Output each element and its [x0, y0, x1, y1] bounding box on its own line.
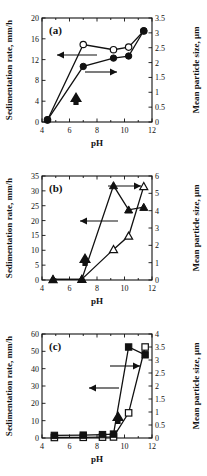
y2-tick-label: 0.5: [155, 103, 165, 112]
data-point-filled-triangle: [110, 182, 118, 189]
x-axis-title: pH: [91, 296, 103, 306]
y-tick-label: 30: [31, 382, 39, 391]
y2-axis-title: Mean particle size, µm: [191, 26, 201, 114]
plot-svg-a: 468101204812162000.511.522.533.5(a)pHSed…: [0, 0, 207, 160]
y-tick-label: 4: [35, 97, 39, 106]
y2-tick-label: 3: [155, 224, 159, 233]
y-tick-label: 0: [35, 118, 39, 127]
x-tick-label: 6: [68, 284, 72, 293]
data-point-filled-circle: [141, 28, 147, 34]
y-tick-label: 30: [31, 187, 39, 196]
y-tick-label: 20: [31, 399, 39, 408]
data-point-filled-square: [51, 432, 57, 438]
data-point-open-triangle: [125, 232, 133, 239]
y2-tick-label: 2: [155, 241, 159, 250]
bold-up-arrow-icon: [79, 253, 91, 266]
y-tick-label: 35: [31, 172, 39, 181]
chart-panel-a: 468101204812162000.511.522.533.5(a)pHSed…: [0, 0, 207, 160]
data-point-filled-square: [99, 431, 105, 437]
y-axis-title: Sedimentation rate, mm/h: [4, 20, 14, 120]
y2-tick-label: 1: [155, 408, 159, 417]
y2-tick-label: 4: [155, 330, 159, 339]
y2-tick-label: 2: [155, 59, 159, 68]
left-pointing-arrow-icon-head: [80, 218, 87, 225]
x-tick-label: 10: [121, 126, 129, 135]
x-tick-label: 12: [148, 442, 156, 451]
data-point-filled-square: [142, 352, 148, 358]
y2-tick-label: 2.5: [155, 369, 165, 378]
right-pointing-arrow-icon: [85, 69, 117, 76]
x-tick-label: 6: [68, 442, 72, 451]
data-point-filled-circle: [44, 117, 50, 123]
x-tick-label: 10: [121, 284, 129, 293]
y-tick-label: 40: [31, 365, 39, 374]
data-point-filled-square: [80, 432, 86, 438]
x-tick-label: 4: [40, 126, 44, 135]
x-tick-label: 4: [40, 442, 44, 451]
y2-tick-label: 1.5: [155, 395, 165, 404]
data-point-open-circle: [125, 44, 131, 50]
y-tick-label: 12: [31, 56, 39, 65]
x-tick-label: 8: [95, 442, 99, 451]
y2-tick-label: 0.5: [155, 421, 165, 430]
x-tick-label: 12: [148, 126, 156, 135]
left-pointing-arrow-icon-head: [89, 385, 96, 392]
y-tick-label: 15: [31, 231, 39, 240]
y2-tick-label: 1: [155, 259, 159, 268]
y-tick-label: 10: [31, 246, 39, 255]
left-pointing-arrow-icon: [89, 385, 119, 392]
data-point-filled-circle: [125, 53, 131, 59]
panel-label-b: (b): [49, 182, 63, 195]
data-point-filled-circle: [110, 55, 116, 61]
right-pointing-arrow-icon-head: [110, 69, 117, 76]
data-point-open-square: [125, 410, 131, 416]
plot-svg-c: 4681012010203040506000.511.522.533.54(c)…: [0, 316, 207, 476]
y-tick-label: 5: [35, 261, 39, 270]
data-point-filled-square: [125, 344, 131, 350]
data-point-filled-square: [110, 431, 116, 437]
plot-svg-b: 4681012051015202530350123456(b)pHSedimen…: [0, 158, 207, 318]
y2-tick-label: 0: [155, 118, 159, 127]
x-tick-label: 12: [148, 284, 156, 293]
y2-tick-label: 6: [155, 172, 159, 181]
series-line-left: [53, 186, 144, 279]
x-axis-title: pH: [91, 454, 103, 464]
chart-panel-c: 4681012010203040506000.511.522.533.54(c)…: [0, 316, 207, 476]
y-tick-label: 16: [31, 35, 39, 44]
x-tick-label: 4: [40, 284, 44, 293]
y2-tick-label: 1: [155, 88, 159, 97]
data-point-filled-circle: [80, 63, 86, 69]
y-tick-label: 20: [31, 217, 39, 226]
y-tick-label: 8: [35, 76, 39, 85]
y2-tick-label: 4: [155, 207, 159, 216]
right-pointing-arrow-icon-head: [133, 363, 140, 370]
left-pointing-arrow-icon: [80, 218, 118, 225]
x-tick-label: 8: [95, 126, 99, 135]
chart-panel-b: 4681012051015202530350123456(b)pHSedimen…: [0, 158, 207, 318]
y-tick-label: 0: [35, 434, 39, 443]
y-tick-label: 10: [31, 417, 39, 426]
y-tick-label: 0: [35, 276, 39, 285]
y-tick-label: 25: [31, 202, 39, 211]
y-tick-label: 50: [31, 347, 39, 356]
y2-tick-label: 2: [155, 382, 159, 391]
bold-up-arrow-icon: [70, 92, 82, 105]
y-tick-label: 60: [31, 330, 39, 339]
y2-tick-label: 3: [155, 356, 159, 365]
y2-tick-label: 2.5: [155, 44, 165, 53]
x-tick-label: 10: [121, 442, 129, 451]
left-pointing-arrow-icon-head: [57, 52, 64, 59]
y2-tick-label: 3.5: [155, 343, 165, 352]
y2-tick-label: 1.5: [155, 73, 165, 82]
y2-axis-title: Mean particle size, µm: [191, 184, 201, 272]
data-point-open-circle: [110, 47, 116, 53]
data-point-filled-triangle: [140, 203, 148, 210]
data-point-open-circle: [80, 41, 86, 47]
x-axis-title: pH: [91, 138, 103, 148]
y2-tick-label: 3: [155, 29, 159, 38]
y2-tick-label: 5: [155, 189, 159, 198]
panel-label-a: (a): [49, 24, 62, 37]
y2-tick-label: 3.5: [155, 14, 165, 23]
x-tick-label: 6: [68, 126, 72, 135]
y-axis-title: Sedimentation rate, mm/h: [4, 178, 14, 278]
